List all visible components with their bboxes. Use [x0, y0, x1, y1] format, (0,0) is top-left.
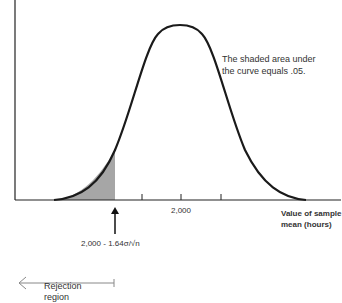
rejection-label-line-1: Rejection [44, 281, 82, 292]
critical-value-label: 2,000 - 1.64σ/√n [81, 238, 140, 249]
rejection-label-line-2: region [44, 292, 69, 303]
annotation-line-1: The shaded area under [222, 54, 316, 65]
normal-curve-figure [0, 0, 342, 303]
normal-curve [54, 25, 306, 200]
shaded-rejection-area [58, 150, 115, 200]
annotation-line-2: the curve equals .05. [222, 66, 306, 77]
center-tick-label: 2,000 [171, 205, 191, 216]
x-axis-label-line-1: Value of sample [281, 208, 341, 219]
x-axis-label-line-2: mean (hours) [281, 219, 332, 230]
arrowhead-icon [111, 207, 119, 214]
